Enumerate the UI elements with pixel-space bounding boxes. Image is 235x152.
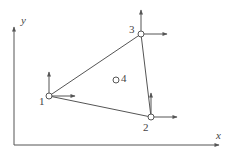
x-axis-label: x <box>215 129 221 141</box>
node-4-label: 4 <box>121 72 127 84</box>
edge-1-2 <box>49 96 151 117</box>
node-3-label: 3 <box>129 23 135 35</box>
node-3-circle-icon <box>138 31 144 37</box>
y-axis-label: y <box>20 14 26 26</box>
node-1-label: 1 <box>39 95 45 107</box>
edge-2-3 <box>141 34 151 117</box>
node-2-circle-icon <box>148 114 154 120</box>
node-4-circle-icon <box>113 77 119 83</box>
dof-arrows <box>49 10 177 117</box>
element-edges <box>49 34 151 117</box>
element-nodes: 1234 <box>39 23 154 133</box>
coordinate-axes <box>14 27 219 145</box>
edge-3-1 <box>49 34 141 96</box>
node-1-circle-icon <box>46 93 52 99</box>
triangle-element-diagram: 1234 x y <box>0 0 235 152</box>
node-2-label: 2 <box>143 121 149 133</box>
